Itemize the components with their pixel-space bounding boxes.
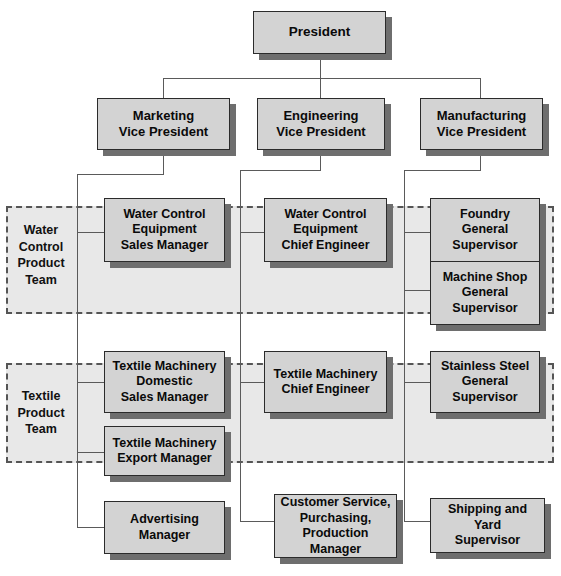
connector-marketing-vp-down: [163, 150, 164, 175]
node-foundry-general-supervisor[interactable]: Foundry General Supervisor: [430, 198, 540, 262]
connector-marketing-to-advertising: [77, 527, 105, 528]
node-textile-machinery-export-manager[interactable]: Textile Machinery Export Manager: [104, 426, 225, 476]
node-stainless-steel-general-supervisor[interactable]: Stainless Steel General Supervisor: [430, 351, 540, 413]
node-president[interactable]: President: [253, 11, 386, 54]
node-engineering-vice-president[interactable]: Engineering Vice President: [257, 98, 385, 150]
org-chart: Water Control Product Team Textile Produ…: [0, 0, 561, 576]
connector-manufacturing-to-shipping: [404, 521, 431, 522]
connector-marketing-to-water-sales: [77, 232, 105, 233]
connector-manufacturing-vp-down: [480, 150, 481, 171]
connector-marketing-to-textile-domestic: [77, 382, 105, 383]
connector-engineering-to-water-chief: [240, 232, 265, 233]
connector-manufacturing-to-stainless: [404, 382, 431, 383]
node-water-control-equipment-sales-manager[interactable]: Water Control Equipment Sales Manager: [104, 198, 225, 262]
connector-manufacturing-to-machine-shop: [404, 290, 431, 291]
connector-engineering-to-customer-service: [240, 521, 274, 522]
connector-manufacturing-to-foundry: [404, 232, 431, 233]
team-label-textile: Textile Product Team: [10, 388, 72, 438]
connector-marketing-vp-jog: [77, 174, 164, 175]
team-label-water-control: Water Control Product Team: [10, 222, 72, 288]
connector-engineering-trunk: [240, 170, 241, 522]
connector-manufacturing-trunk: [404, 170, 405, 522]
node-customer-service-purchasing-production-manager[interactable]: Customer Service, Purchasing, Production…: [274, 494, 397, 558]
connector-marketing-to-textile-export: [77, 452, 105, 453]
connector-manufacturing-vp-jog: [404, 170, 481, 171]
node-textile-machinery-domestic-sales-manager[interactable]: Textile Machinery Domestic Sales Manager: [104, 351, 225, 413]
connector-engineering-vp-jog: [240, 170, 321, 171]
node-machine-shop-general-supervisor[interactable]: Machine Shop General Supervisor: [430, 261, 540, 325]
connector-marketing-trunk: [77, 174, 78, 528]
node-textile-machinery-chief-engineer[interactable]: Textile Machinery Chief Engineer: [264, 351, 387, 413]
node-manufacturing-vice-president[interactable]: Manufacturing Vice President: [420, 98, 543, 150]
connector-vp-bus: [163, 78, 481, 79]
node-advertising-manager[interactable]: Advertising Manager: [104, 501, 225, 554]
connector-engineering-to-textile-chief: [240, 382, 265, 383]
connector-bus-to-manufacturing-vp: [480, 78, 481, 99]
node-water-control-equipment-chief-engineer[interactable]: Water Control Equipment Chief Engineer: [264, 198, 387, 262]
connector-engineering-vp-down: [320, 150, 321, 171]
node-shipping-and-yard-supervisor[interactable]: Shipping and Yard Supervisor: [430, 498, 545, 553]
node-marketing-vice-president[interactable]: Marketing Vice President: [97, 98, 230, 150]
connector-bus-to-marketing-vp: [163, 78, 164, 99]
connector-bus-to-engineering-vp: [320, 78, 321, 99]
